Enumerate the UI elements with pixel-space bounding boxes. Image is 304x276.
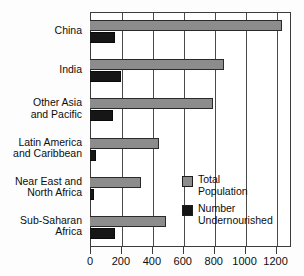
category-axis: ChinaIndiaOther Asiaand PacificLatin Ame… [0,12,86,247]
legend-item: Number Undernourished [182,203,300,226]
bar-number-undernourished [90,110,113,121]
category-label: Other Asiaand Pacific [31,97,82,120]
category-label: Latin Americaand Caribbean [13,137,82,160]
legend-label: Total Population [198,174,248,197]
bar-total-population [90,59,224,70]
x-tick-mark [276,247,277,254]
x-tick-mark [245,247,246,254]
category-label: Sub-SaharanAfrica [20,215,82,238]
bar-total-population [90,20,282,31]
x-tick-mark [121,247,122,254]
bar-number-undernourished [90,32,115,43]
x-tick-label: 800 [205,255,223,268]
bar-number-undernourished [90,189,94,200]
chart-legend: Total PopulationNumber Undernourished [182,174,300,232]
legend-item: Total Population [182,174,300,197]
bar-total-population [90,98,213,109]
x-tick-mark [90,247,91,254]
x-tick-label: 1200 [263,255,287,268]
bar-number-undernourished [90,150,96,161]
x-tick-mark [214,247,215,254]
bar-number-undernourished [90,71,121,82]
x-tick-mark [152,247,153,254]
x-tick-label: 400 [143,255,161,268]
x-tick-label: 600 [174,255,192,268]
x-tick-label: 1000 [232,255,256,268]
chart-title [46,0,278,4]
category-label: India [59,64,82,76]
category-label: China [55,25,82,37]
x-tick-label: 200 [112,255,130,268]
bar-chart: ChinaIndiaOther Asiaand PacificLatin Ame… [0,0,304,276]
legend-swatch-total [182,176,193,187]
bar-number-undernourished [90,228,115,239]
x-tick-label: 0 [87,255,93,268]
bar-total-population [90,216,166,227]
bar-total-population [90,177,141,188]
legend-label: Number Undernourished [198,203,273,226]
x-tick-mark [183,247,184,254]
legend-swatch-undernourished [182,205,193,216]
category-label: Near East andNorth Africa [15,176,82,199]
x-axis: 020040060080010001200 [90,247,291,276]
bar-total-population [90,138,159,149]
